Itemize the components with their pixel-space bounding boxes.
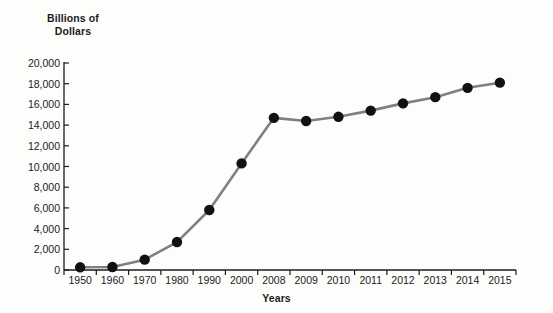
data-point	[301, 116, 311, 126]
data-point	[462, 83, 472, 93]
data-point	[366, 105, 376, 115]
data-point	[495, 77, 505, 87]
data-point	[398, 98, 408, 108]
data-point	[204, 205, 214, 215]
data-point	[333, 112, 343, 122]
x-axis-title: Years	[0, 292, 553, 305]
data-point	[236, 158, 246, 168]
data-markers	[75, 77, 505, 272]
data-line	[80, 83, 500, 268]
data-point	[75, 262, 85, 272]
data-point	[430, 92, 440, 102]
chart-container: Billions of Dollars 02,0004,0006,0008,00…	[0, 0, 553, 313]
axis-ticks	[64, 63, 516, 275]
plot-area	[0, 0, 553, 313]
data-point	[140, 254, 150, 264]
data-point	[172, 237, 182, 247]
data-point	[269, 113, 279, 123]
data-point	[107, 262, 117, 272]
